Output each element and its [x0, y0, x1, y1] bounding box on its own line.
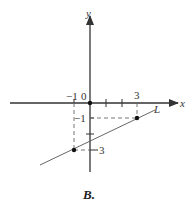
point-neg1-neg3: [72, 148, 76, 152]
x-tick-label-3: 3: [134, 89, 140, 101]
coordinate-diagram: y x 0 −1 3 −1 3 L B.: [0, 0, 189, 211]
x-tick-label-neg1: −1: [66, 90, 78, 102]
origin-point: [88, 101, 92, 105]
y-ticks: [86, 118, 98, 150]
point-3-neg1: [135, 116, 139, 120]
origin-label: 0: [81, 90, 87, 102]
x-axis-label: x: [179, 97, 185, 109]
y-tick-label-neg1: −1: [74, 112, 86, 124]
dashed-guides: [74, 103, 137, 150]
y-axis-label: y: [85, 7, 91, 19]
figure-caption: B.: [82, 187, 95, 202]
y-tick-label-neg3: 3: [99, 144, 105, 156]
line-L-label: L: [153, 103, 160, 115]
